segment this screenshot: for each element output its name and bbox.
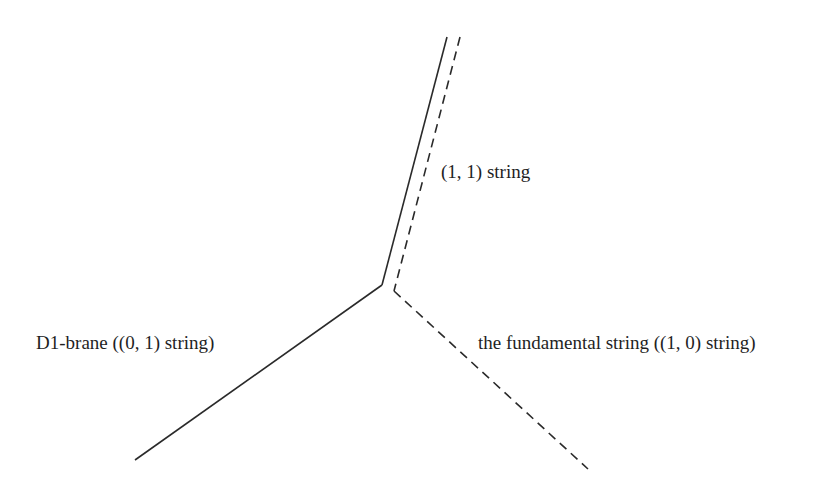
- diagram-canvas: [0, 0, 838, 496]
- string-junction-diagram: (1, 1) string D1-brane ((0, 1) string) t…: [0, 0, 838, 496]
- dashed-line-fundamental-string: [394, 291, 588, 469]
- solid-line-d1-brane: [135, 285, 382, 460]
- label-11-string: (1, 1) string: [441, 162, 530, 181]
- label-fundamental-string: the fundamental string ((1, 0) string): [478, 333, 756, 352]
- solid-line-upper: [382, 37, 447, 285]
- label-d1-brane: D1-brane ((0, 1) string): [36, 333, 214, 352]
